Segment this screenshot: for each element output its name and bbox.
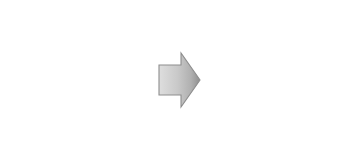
cross-out-lines: [220, 22, 335, 135]
input-wave-top: [12, 4, 154, 60]
cross-out-mark: [220, 22, 335, 135]
figure-root: [0, 0, 355, 159]
right-arrow-shape: [156, 50, 202, 110]
input-wave-bottom: [12, 92, 154, 152]
right-arrow-icon: [156, 50, 202, 110]
input-wave-bottom-plot: [12, 92, 154, 152]
input-wave-top-plot: [12, 4, 154, 60]
right-arrow-polygon: [159, 53, 200, 107]
